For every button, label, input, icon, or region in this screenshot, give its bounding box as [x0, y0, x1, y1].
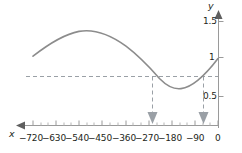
x-tick-label-minus630: −630	[42, 133, 66, 143]
graph-figure: x y −720 −630 −540 −450 −360 −270 −180 −…	[0, 0, 242, 153]
x-axis-label: x	[9, 128, 15, 139]
y-axis-label: y	[208, 0, 214, 11]
x-tick-label-zero: 0	[215, 133, 221, 143]
x-axis-major-ticks	[33, 121, 218, 126]
drop-arrow-right-icon	[199, 112, 209, 124]
y-tick-label-0point5: 0.5	[203, 91, 217, 101]
x-tick-label-minus360: −360	[112, 133, 136, 143]
x-tick-label-minus450: −450	[88, 133, 112, 143]
x-tick-label-minus540: −540	[65, 133, 89, 143]
y-tick-label-1point5: 1.5	[203, 16, 217, 26]
x-tick-label-minus270: −270	[135, 133, 159, 143]
y-axis-ticks	[219, 22, 224, 97]
x-tick-label-minus720: −720	[19, 133, 43, 143]
curve-path	[33, 31, 218, 89]
y-tick-label-1: 1	[209, 52, 215, 62]
x-tick-label-minus180: −180	[158, 133, 182, 143]
x-axis-arrow-icon	[16, 122, 25, 130]
x-tick-label-minus90: −90	[186, 133, 204, 143]
